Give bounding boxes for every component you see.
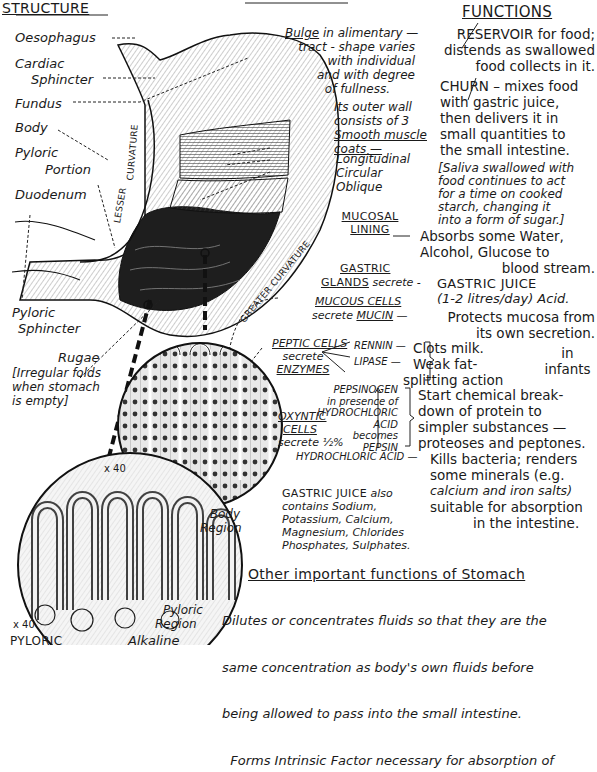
function-kills-bacteria: Kills bacteria; renders some minerals (e… bbox=[430, 451, 583, 531]
structure-heading: STRUCTURE bbox=[2, 0, 89, 16]
infants-note: in infants bbox=[540, 345, 595, 377]
hcl-label: HYDROCHLORIC ACID — bbox=[296, 451, 418, 463]
rugae-note-2: when stomach bbox=[12, 380, 100, 394]
gastric-label-1: GASTRIC bbox=[340, 262, 390, 275]
other-functions-text: Dilutes or concentrates fluids so that t… bbox=[222, 582, 554, 772]
label-cardiac-2: Sphincter bbox=[31, 72, 93, 87]
label-duodenum: Duodenum bbox=[15, 187, 87, 202]
body-region-label: Body Region bbox=[200, 507, 240, 535]
outer-wall-note: Its outer wall consists of 3 Smooth musc… bbox=[334, 100, 427, 156]
muscle-layers: Longitudinal Circular Oblique bbox=[336, 152, 410, 194]
mucous-cells-label: MUCOUS CELLS bbox=[315, 295, 401, 308]
rugae-note-1: [Irregular folds bbox=[12, 366, 101, 380]
function-weak-fat: Weak fat- splitting action bbox=[413, 356, 503, 388]
label-cardiac-1: Cardiac bbox=[15, 56, 64, 71]
function-churn: CHURN – mixes food with gastric juice, t… bbox=[440, 78, 578, 158]
gastric-juice-contents: GASTRIC JUICE also contains Sodium, Pota… bbox=[282, 487, 411, 552]
label-pyloric-sphincter-2: Sphincter bbox=[18, 321, 80, 336]
pyloric-region-label: Pyloric Region bbox=[155, 603, 203, 631]
other-functions-title: Other important functions of Stomach bbox=[248, 566, 525, 582]
oxyntic-cells-label: OXYNTIC CELLS secrete ½% bbox=[278, 410, 344, 449]
mucosal-lining-label: MUCOSAL LINING bbox=[340, 210, 400, 236]
function-protein-breakdown: Start chemical break- down of protein to… bbox=[418, 387, 585, 451]
bulge-note: Bulge in alimentary — bbox=[285, 26, 418, 40]
rennin-label: RENNIN — bbox=[354, 340, 406, 352]
pyloric-caps-label: PYLORIC bbox=[10, 634, 62, 648]
gastric-glands-label: GLANDS secrete - bbox=[321, 276, 421, 289]
rugae-note-3: is empty] bbox=[12, 394, 69, 408]
magnification-pyloric: x 40 bbox=[13, 619, 35, 631]
function-gastric-juice: GASTRIC JUICE (1-2 litres/day) Acid. bbox=[437, 276, 569, 306]
secrete-mucin-label: secrete MUCIN — bbox=[312, 309, 408, 322]
label-pyloric-portion-2: Portion bbox=[45, 162, 91, 177]
label-rugae: Rugae bbox=[58, 350, 100, 365]
functions-heading: FUNCTIONS bbox=[462, 3, 552, 21]
function-clots-milk: Clots milk. bbox=[413, 340, 484, 356]
bulge-note-rest: tract - shape varies with individual and… bbox=[270, 40, 415, 96]
label-pyloric-sphincter-1: Pyloric bbox=[12, 305, 55, 320]
peptic-cells-label: PEPTIC CELLS secrete ENZYMES bbox=[272, 337, 334, 376]
function-protects: Protects mucosa from its own secretion. bbox=[418, 309, 595, 341]
label-oesophagus: Oesophagus bbox=[15, 30, 96, 45]
label-body: Body bbox=[15, 120, 48, 135]
saliva-note: [Saliva swallowed with food continues to… bbox=[438, 162, 574, 227]
magnification-body: x 40 bbox=[104, 463, 126, 475]
label-pyloric-portion-1: Pyloric bbox=[15, 145, 58, 160]
function-reservoir: RESERVOIR for food; distends as swallowe… bbox=[418, 26, 595, 74]
alkaline-label: Alkaline bbox=[128, 633, 179, 648]
lipase-label: LIPASE — bbox=[354, 356, 401, 368]
function-absorbs: Absorbs some Water, Alcohol, Glucose to … bbox=[420, 228, 595, 276]
label-fundus: Fundus bbox=[15, 96, 62, 111]
